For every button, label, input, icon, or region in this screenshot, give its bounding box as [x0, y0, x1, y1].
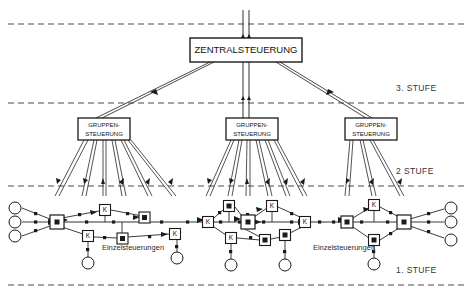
group-control-box-right[interactable]: GRUPPEN- STEUERUNG — [345, 118, 397, 140]
k-controller-box[interactable]: K — [170, 229, 181, 240]
edge — [237, 238, 260, 240]
tick-square — [126, 212, 129, 215]
tick-square — [34, 220, 37, 223]
middle-terminals — [225, 259, 291, 271]
k-controller-box[interactable]: K — [83, 231, 94, 242]
k-box-label: K — [206, 218, 211, 225]
terminal-circle — [445, 216, 457, 228]
central-vertical-bus — [241, 10, 251, 118]
fan-arrow — [245, 178, 249, 184]
k-box-label: K — [103, 206, 108, 213]
tick-square — [262, 220, 265, 223]
central-control-box[interactable]: ZENTRALSTEUERUNG — [190, 38, 302, 62]
link-central-left-a — [96, 62, 210, 118]
tick-square — [85, 220, 88, 223]
group-fan-links — [55, 140, 404, 196]
tick-square — [389, 211, 392, 214]
k-box-label: K — [86, 232, 91, 239]
fan-line — [259, 140, 272, 196]
group-control-box-middle[interactable]: GRUPPEN- STEUERUNG — [226, 118, 278, 140]
junction-node[interactable] — [341, 216, 353, 228]
k-controller-box[interactable]: K — [203, 217, 214, 228]
edge — [278, 207, 300, 217]
fan-line — [268, 140, 290, 196]
fan-line — [210, 140, 234, 196]
k-box-label: K — [229, 234, 234, 241]
tick-square — [148, 235, 151, 238]
tick-square — [186, 220, 189, 223]
annotation-einzelsteuerungen-right: Einzelsteuerungen — [313, 243, 375, 252]
k-controller-box[interactable]: K — [267, 201, 278, 212]
terminal-circle — [279, 259, 291, 271]
middle-cluster: K K K K — [197, 201, 321, 272]
tick-square — [78, 213, 81, 216]
tick-square — [290, 212, 293, 215]
arrow — [90, 210, 97, 215]
k-controller-box[interactable]: K — [226, 233, 237, 244]
right-k-boxes[interactable]: K — [369, 200, 380, 211]
tick-square — [283, 250, 286, 253]
right-junctions[interactable] — [341, 215, 411, 246]
tick-square — [160, 220, 163, 223]
tick-square — [427, 220, 430, 223]
fan-arrow — [56, 178, 61, 184]
group-control-boxes[interactable]: GRUPPEN- STEUERUNG GRUPPEN- STEUERUNG GR… — [78, 118, 397, 140]
tick-square — [218, 211, 221, 214]
k-controller-box[interactable]: K — [369, 200, 380, 211]
annotation-einzelsteuerungen-left: Einzelsteuerungen — [102, 243, 164, 252]
k-box-label: K — [303, 218, 308, 225]
tick-square — [318, 220, 321, 223]
edge — [214, 227, 226, 235]
group-box-label-line1: GRUPPEN- — [355, 122, 387, 128]
fan-arrow — [168, 178, 173, 185]
tick-square — [360, 220, 363, 223]
stage-label-2: 2 STUFE — [396, 166, 434, 176]
left-cluster: K K K — [9, 202, 189, 269]
k-controller-box[interactable]: K — [300, 217, 311, 228]
group-control-box-left[interactable]: GRUPPEN- STEUERUNG — [78, 118, 130, 140]
right-terminals — [368, 202, 457, 270]
bus-arrow-mid-left — [241, 96, 245, 100]
fan-line — [256, 140, 268, 196]
junction-node[interactable] — [50, 215, 64, 229]
group-box-label-line1: GRUPPEN- — [236, 122, 268, 128]
tick-square — [386, 220, 389, 223]
junction-node[interactable] — [260, 235, 271, 246]
edge — [62, 227, 83, 234]
tick-square — [427, 230, 430, 233]
link-central-right-b — [276, 62, 366, 118]
k-box-label: K — [372, 201, 377, 208]
junction-node[interactable] — [241, 215, 255, 229]
junction-node[interactable] — [280, 230, 291, 241]
group-box-label-line1: GRUPPEN- — [88, 122, 120, 128]
terminal-circle — [445, 234, 457, 246]
tick-square — [86, 248, 89, 251]
terminal-circle — [225, 259, 237, 271]
junction-node[interactable] — [397, 215, 411, 229]
tick-square — [249, 236, 252, 239]
fan-line — [277, 140, 307, 196]
left-k-boxes[interactable]: K K K — [83, 205, 181, 242]
fan-arrow — [207, 178, 212, 184]
tick-square — [34, 212, 37, 215]
tick-square — [332, 220, 335, 223]
junction-node[interactable] — [224, 201, 235, 212]
central-to-group-links — [96, 62, 372, 118]
terminal-circle — [445, 202, 457, 214]
edge — [353, 227, 369, 238]
k-controller-box[interactable]: K — [100, 205, 111, 216]
tick-square — [103, 236, 106, 239]
stage-labels: 3. STUFE 2 STUFE 1. STUFE — [396, 83, 437, 275]
link-central-right-a — [280, 62, 372, 118]
terminal-circle — [9, 202, 21, 214]
fan-line — [265, 140, 286, 196]
link-central-left-b — [102, 62, 214, 118]
fan-line — [246, 140, 247, 196]
fan-line — [274, 140, 303, 196]
tick-square — [229, 250, 232, 253]
tick-square — [219, 220, 222, 223]
junction-node[interactable] — [139, 212, 150, 223]
bus-arrow-mid-right — [247, 96, 251, 100]
right-cluster: K — [332, 200, 457, 271]
group-box-label-line2: STEUERUNG — [85, 131, 123, 137]
